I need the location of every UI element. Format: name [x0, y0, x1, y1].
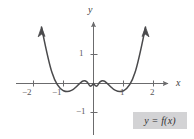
y-tick-label-minus1: −1 [76, 107, 86, 116]
curve-label-box: y = f(x) [133, 112, 187, 129]
x-tick-label-minus1: −1 [52, 88, 62, 97]
curve-arrow-left-icon [38, 27, 45, 37]
function-graph-figure: x y −2 −1 1 2 1 −1 y = f(x) [0, 0, 194, 139]
x-axis-label: x [176, 78, 180, 88]
y-axis-label: y [88, 5, 92, 15]
curve-label-text: y = f(x) [144, 116, 176, 126]
x-tick-label-1: 1 [120, 88, 125, 97]
y-tick-label-1: 1 [79, 49, 84, 58]
x-tick-label-minus2: −2 [22, 88, 32, 97]
x-tick-label-2: 2 [150, 88, 155, 97]
curve-arrow-right-icon [142, 27, 149, 37]
